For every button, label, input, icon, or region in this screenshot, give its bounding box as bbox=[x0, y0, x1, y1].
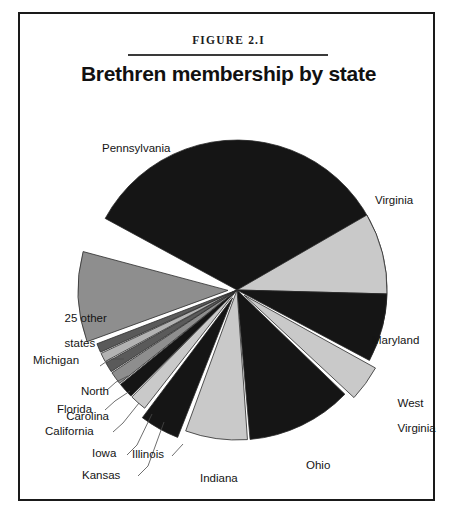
slice-label-west-virginia: West Virginia bbox=[372, 384, 436, 447]
slice-label-indiana: Indiana bbox=[200, 472, 238, 485]
figure-page: FIGURE 2.I Brethren membership by state … bbox=[0, 0, 453, 519]
slice-label-north-carolina: North Carolina bbox=[37, 372, 109, 435]
slice-label-pennsylvania: Pennsylvania bbox=[102, 142, 170, 155]
slice-label-maryland: Maryland bbox=[372, 334, 419, 347]
slice-label-illinois: Illinois bbox=[132, 448, 164, 461]
slice-label-virginia: Virginia bbox=[375, 194, 413, 207]
leader-line-illinois bbox=[172, 444, 183, 456]
slice-label-north-carolina-line1: North bbox=[81, 385, 109, 397]
leader-line-california bbox=[113, 403, 139, 432]
slice-label-north-carolina-line2: Carolina bbox=[66, 410, 109, 422]
slice-label-west-virginia-line1: West bbox=[398, 397, 424, 409]
slice-label-other-line2: states bbox=[65, 337, 96, 349]
slice-label-25-other-states: 25 other states bbox=[39, 299, 107, 362]
slice-label-west-virginia-line2: Virginia bbox=[398, 422, 436, 434]
pie-chart-area: Pennsylvania Virginia Maryland West Virg… bbox=[20, 14, 437, 503]
slice-label-other-line1: 25 other bbox=[65, 312, 107, 324]
slice-label-ohio: Ohio bbox=[306, 459, 330, 472]
slice-label-kansas: Kansas bbox=[82, 469, 120, 482]
figure-frame: FIGURE 2.I Brethren membership by state … bbox=[18, 12, 435, 501]
slice-label-iowa: Iowa bbox=[92, 447, 116, 460]
